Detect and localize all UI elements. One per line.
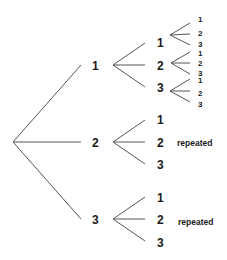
edge-3-3 (113, 219, 145, 241)
edge-1-3 (113, 65, 145, 87)
node-2-3: 3 (157, 158, 164, 172)
repeated-note-2: repeated (177, 138, 212, 148)
edge-2-1 (113, 120, 145, 142)
repeated-note-3: repeated (178, 217, 213, 227)
edge-3-1 (113, 197, 145, 219)
edge-1-1 (113, 43, 145, 65)
node-1-3-3: 3 (198, 100, 203, 109)
tree-diagram: 1 2 3 1 2 3 1 2 3 1 2 3 1 2 3 1 2 3 repe… (0, 0, 227, 260)
edge-root-1 (13, 65, 81, 142)
node-1-1: 1 (157, 36, 164, 50)
node-2-1: 1 (157, 113, 164, 127)
node-2-2: 2 (157, 136, 164, 150)
edge-root-3 (13, 142, 81, 219)
node-1-3-1: 1 (198, 76, 203, 85)
node-1-1-3: 3 (198, 40, 203, 49)
node-1-2-1: 1 (198, 49, 203, 58)
node-3-3: 3 (157, 236, 164, 250)
edge-2-3 (113, 142, 145, 164)
node-3-2: 2 (157, 213, 164, 227)
node-1: 1 (92, 59, 99, 73)
node-1-3-2: 2 (198, 89, 203, 98)
node-2: 2 (92, 136, 99, 150)
node-1-1-2: 2 (198, 29, 203, 38)
node-3-1: 1 (157, 191, 164, 205)
node-1-2-2: 2 (198, 59, 203, 68)
node-1-2: 2 (157, 59, 164, 73)
node-3: 3 (92, 213, 99, 227)
node-1-3: 3 (157, 81, 164, 95)
node-1-1-1: 1 (198, 15, 203, 24)
